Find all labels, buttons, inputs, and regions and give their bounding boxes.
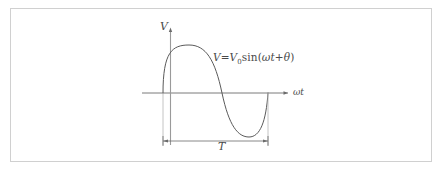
period-dimension-arrow xyxy=(163,136,268,146)
equation-function: sin xyxy=(242,51,258,63)
equation-plus: + xyxy=(275,51,284,63)
vertical-axis-arrowhead xyxy=(169,28,172,33)
equation-omega: ω xyxy=(262,51,271,63)
equation-close-paren: ) xyxy=(290,51,294,63)
equation-lhs: V xyxy=(213,51,221,63)
wave-equation-annotation: V=V0sin(ωt+θ) xyxy=(213,51,294,66)
equation-equals: = xyxy=(221,51,230,63)
period-arrowhead-right xyxy=(263,139,268,142)
horizontal-axis-label: ωt xyxy=(293,87,304,97)
vertical-axis-label: V xyxy=(160,20,168,33)
period-label: T xyxy=(218,140,225,153)
period-arrowhead-left xyxy=(163,139,168,142)
voltage-axis xyxy=(169,28,172,146)
omega-t-axis xyxy=(142,91,288,94)
horizontal-axis-arrowhead xyxy=(284,91,289,94)
